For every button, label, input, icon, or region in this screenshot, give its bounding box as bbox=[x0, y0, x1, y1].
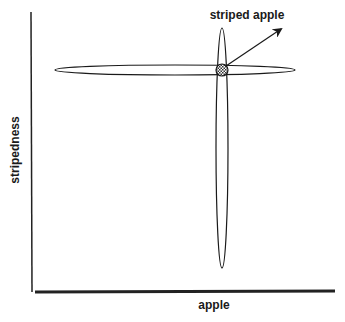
annotation-label: striped apple bbox=[210, 8, 285, 22]
x-axis bbox=[35, 291, 335, 292]
apple-ellipse bbox=[55, 65, 295, 75]
arrow-icon bbox=[226, 29, 281, 66]
x-axis-label: apple bbox=[198, 298, 230, 312]
diagram-canvas: striped apple apple stripedness bbox=[0, 0, 345, 322]
y-axis bbox=[31, 12, 32, 292]
y-axis-label: stripedness bbox=[8, 116, 22, 184]
